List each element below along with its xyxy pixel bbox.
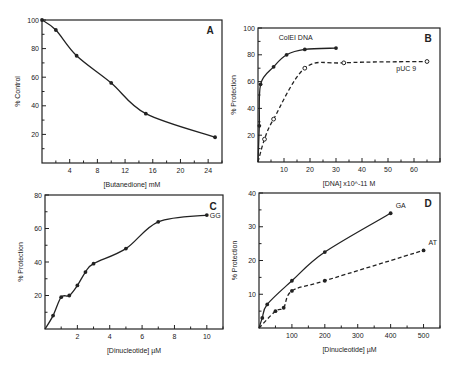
series-label: pUC 9 [396,65,416,73]
series-label: AT [429,239,438,246]
data-point [265,302,269,306]
panel-a: 481216202420406080100[Butanedione] mM% C… [14,17,222,190]
data-point [342,61,346,65]
plot-frame [42,20,222,163]
x-tick-label: 60 [410,166,418,173]
panel-letter: A [206,25,213,36]
series-curve-puc-9 [258,62,427,163]
data-point [260,316,264,320]
data-point [272,65,276,69]
x-tick-label: 8 [95,167,99,174]
data-point [84,270,88,274]
y-tick-label: 30 [248,223,256,230]
figure-canvas: 481216202420406080100[Butanedione] mM% C… [0,0,461,369]
y-axis-label: % Protection [230,75,237,115]
panel-b: 10203040506020406080100[DNA] x10^-11 M% … [230,25,440,189]
data-point [285,53,289,57]
data-point [213,135,217,139]
x-tick-label: 24 [204,167,212,174]
data-point [425,60,429,64]
panel-letter: B [424,33,431,44]
series-curve-gg [45,215,207,329]
data-point [75,284,79,288]
x-tick-label: 20 [306,166,314,173]
data-point [109,81,113,85]
data-point [303,66,307,70]
x-tick-label: 50 [384,166,392,173]
data-point [422,248,426,252]
x-axis-label: [Dinucleotide] µM [107,347,161,355]
data-point [205,213,209,217]
x-tick-label: 500 [418,332,430,339]
data-point [389,211,393,215]
plot-frame [45,195,223,329]
x-tick-label: 200 [319,332,331,339]
x-tick-label: 16 [149,167,157,174]
data-point [156,220,160,224]
data-point [75,54,79,58]
data-point [67,294,71,298]
y-tick-label: 80 [247,51,255,58]
y-tick-label: 20 [247,132,255,139]
data-point [144,112,148,116]
data-point [290,289,294,293]
y-tick-label: 100 [243,25,255,32]
panel-d: 10020030040050010203040[Dinucleotide] µM… [231,190,440,355]
y-tick-label: 20 [31,131,39,138]
y-tick-label: 60 [34,225,42,232]
data-point [40,18,44,22]
x-tick-label: 400 [385,332,397,339]
data-point [257,124,261,128]
series-label: GG [210,212,221,219]
data-point [59,295,63,299]
y-tick-label: 60 [31,74,39,81]
y-tick-label: 20 [248,257,256,264]
series-label: GA [396,202,406,209]
panel-letter: C [209,201,216,212]
y-tick-label: 20 [34,292,42,299]
data-point [124,247,128,251]
y-tick-label: 10 [248,291,256,298]
plot-frame [258,28,440,162]
y-axis-label: % Protection [17,242,24,282]
data-point [303,48,307,52]
series-label: ColEI DNA [279,34,313,41]
x-axis-label: [Dinucleotide] µM [322,346,376,354]
x-tick-label: 20 [177,167,185,174]
x-tick-label: 4 [108,333,112,340]
data-point [323,250,327,254]
x-axis-label: [DNA] x10^-11 M [323,180,376,188]
y-tick-label: 40 [31,102,39,109]
plot-frame [259,193,440,328]
y-tick-label: 40 [248,190,256,197]
y-tick-label: 100 [27,17,39,24]
y-tick-label: 40 [34,259,42,266]
x-tick-label: 12 [121,167,129,174]
data-point [51,314,55,318]
series-curve-main [42,20,215,137]
x-tick-label: 4 [68,167,72,174]
data-point [92,262,96,266]
series-curve-at [259,250,424,328]
data-point [259,82,263,86]
y-tick-label: 80 [31,45,39,52]
y-tick-label: 60 [247,78,255,85]
panel-c: 24681020406080[Dinucleotide] µM% Protect… [17,192,223,356]
x-tick-label: 2 [75,333,79,340]
data-point [323,279,327,283]
series-curve-ga [259,213,391,328]
data-point [290,279,294,283]
data-point [334,46,338,50]
data-point [272,117,276,121]
x-tick-label: 100 [286,332,298,339]
y-tick-label: 40 [247,105,255,112]
x-tick-label: 10 [203,333,211,340]
y-axis-label: % Protection [231,241,238,281]
x-tick-label: 8 [173,333,177,340]
y-axis-label: % Control [14,76,21,107]
panel-letter: D [424,198,431,209]
y-tick-label: 80 [34,192,42,199]
x-tick-label: 40 [358,166,366,173]
data-point [263,137,267,141]
x-tick-label: 6 [140,333,144,340]
